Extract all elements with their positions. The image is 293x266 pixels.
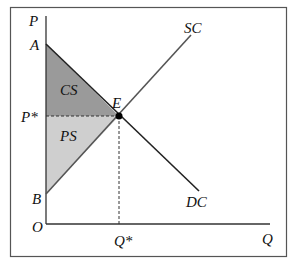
- q-star-label: Q*: [114, 233, 133, 249]
- x-axis-label: Q: [262, 231, 273, 247]
- y-axis-label: P: [28, 13, 38, 29]
- p-star-label: P*: [20, 109, 38, 125]
- equilibrium-point: [116, 113, 123, 120]
- surplus-diagram: P A CS E P* PS B O Q* SC DC Q: [0, 0, 293, 266]
- demand-curve-label: DC: [185, 194, 208, 210]
- ps-label: PS: [59, 128, 77, 144]
- point-a-label: A: [29, 37, 40, 53]
- supply-curve-label: SC: [184, 20, 203, 36]
- point-e-label: E: [111, 95, 121, 111]
- cs-label: CS: [60, 82, 78, 98]
- origin-label: O: [32, 219, 43, 235]
- point-b-label: B: [32, 191, 41, 207]
